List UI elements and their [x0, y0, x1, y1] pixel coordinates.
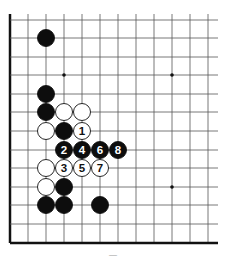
star-point-icon — [62, 73, 66, 77]
move-number: 2 — [61, 144, 67, 156]
move-number: 7 — [97, 162, 103, 174]
black-stone — [92, 197, 109, 214]
move-number: 6 — [97, 144, 103, 156]
white-stone-1: 1 — [74, 123, 91, 140]
diagram-caption: — — [0, 250, 226, 258]
black-stone — [38, 104, 55, 121]
star-point-icon — [170, 185, 174, 189]
star-point-icon — [170, 73, 174, 77]
white-stone — [74, 104, 91, 121]
white-stone — [38, 123, 55, 140]
black-stone — [38, 86, 55, 103]
black-stone — [56, 197, 73, 214]
black-stone — [56, 123, 73, 140]
black-stone-6: 6 — [92, 142, 109, 159]
black-stone — [38, 197, 55, 214]
move-number: 4 — [79, 144, 86, 156]
black-stone-4: 4 — [74, 142, 91, 159]
move-number: 3 — [61, 162, 67, 174]
move-number: 5 — [79, 162, 86, 174]
white-stone — [38, 179, 55, 196]
go-board: 12468357 — [0, 0, 226, 258]
white-stone — [38, 160, 55, 177]
white-stone — [56, 104, 73, 121]
move-number: 1 — [79, 125, 86, 137]
black-stone — [38, 30, 55, 47]
black-stone-2: 2 — [56, 142, 73, 159]
black-stone — [56, 179, 73, 196]
move-number: 8 — [115, 144, 122, 156]
white-stone-7: 7 — [92, 160, 109, 177]
white-stone-3: 3 — [56, 160, 73, 177]
white-stone-5: 5 — [74, 160, 91, 177]
black-stone-8: 8 — [110, 142, 127, 159]
